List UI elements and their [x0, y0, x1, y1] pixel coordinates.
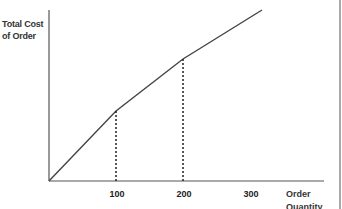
- y-axis-label: Total Cost of Order: [2, 18, 46, 42]
- x-tick-300: 300: [243, 189, 258, 199]
- x-axis-label: Order Quantity: [286, 188, 323, 209]
- cost-line: [49, 10, 262, 181]
- x-axis-label-line1: Order: [286, 188, 323, 201]
- chart-canvas: [0, 0, 342, 209]
- x-tick-200: 200: [176, 189, 191, 199]
- x-tick-100: 100: [109, 189, 124, 199]
- y-axis-label-line1: Total Cost: [2, 18, 46, 30]
- y-axis-label-line2: of Order: [2, 30, 46, 42]
- x-axis-label-line2: Quantity: [286, 201, 323, 209]
